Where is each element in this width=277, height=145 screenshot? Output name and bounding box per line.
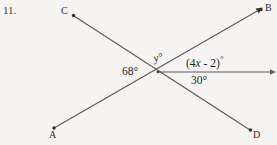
angle-expression-suffix: - 2) xyxy=(201,57,220,69)
point-label-a: A xyxy=(49,130,56,140)
geometry-diagram xyxy=(0,0,277,145)
problem-number: 11. xyxy=(3,5,16,16)
arrowhead-east-icon xyxy=(270,69,276,74)
angle-label-4x-minus-2: (4x - 2)° xyxy=(186,55,224,69)
endpoint-dot-b xyxy=(259,8,262,11)
degree-symbol-icon: ° xyxy=(220,54,224,64)
point-label-d: D xyxy=(253,130,260,140)
point-label-b: B xyxy=(265,3,272,13)
line-segment-cd xyxy=(74,16,250,130)
geometry-problem-screenshot: 11. C B A D 68° y° (4x - 2)° 30° xyxy=(0,0,277,145)
point-label-c: C xyxy=(61,6,68,16)
angle-label-30: 30° xyxy=(191,75,207,87)
endpoint-dot-d xyxy=(249,128,252,131)
angle-expression-prefix: (4 xyxy=(186,57,196,69)
angle-label-68: 68° xyxy=(122,66,138,78)
line-segment-ab xyxy=(54,10,259,128)
endpoint-dot-c xyxy=(72,14,75,17)
intersection-point xyxy=(157,71,160,74)
